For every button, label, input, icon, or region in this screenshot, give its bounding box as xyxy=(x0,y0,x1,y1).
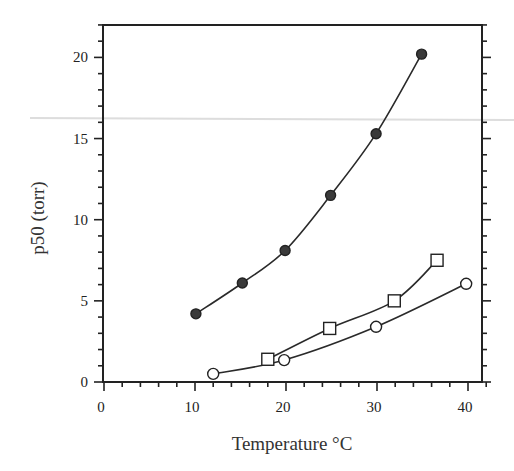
filled-circle-marker xyxy=(280,246,290,256)
data-markers xyxy=(191,49,472,379)
x-tick-label: 10 xyxy=(185,399,200,415)
filled-circle-marker xyxy=(371,129,381,139)
x-tick-label: 20 xyxy=(276,399,291,415)
y-tick-label: 10 xyxy=(73,212,88,228)
y-axis-title: p50 (torr) xyxy=(27,181,49,254)
y-tick-label: 0 xyxy=(81,374,89,390)
open-circle-marker xyxy=(461,278,472,289)
filled-circle-marker xyxy=(326,190,336,200)
open-square-marker xyxy=(262,353,274,365)
p50-temperature-chart: 01020304005101520 Temperature °C p50 (to… xyxy=(0,0,514,471)
open-circle-marker xyxy=(208,368,219,379)
plot-frame xyxy=(103,25,482,382)
minor-ticks xyxy=(98,25,487,387)
fit-curve-open-circle xyxy=(213,284,466,374)
filled-circle-marker xyxy=(237,278,247,288)
open-circle-marker xyxy=(279,355,290,366)
open-square-marker xyxy=(431,254,443,266)
x-tick-label: 40 xyxy=(458,399,473,415)
filled-circle-marker xyxy=(191,309,201,319)
x-tick-label: 0 xyxy=(97,399,105,415)
open-square-marker xyxy=(324,322,336,334)
open-square-marker xyxy=(388,295,400,307)
y-tick-label: 20 xyxy=(73,49,88,65)
y-tick-label: 5 xyxy=(81,293,89,309)
x-axis-title: Temperature °C xyxy=(232,433,353,454)
filled-circle-marker xyxy=(417,49,427,59)
fit-curve-filled-circle xyxy=(196,54,422,314)
major-ticks xyxy=(94,57,491,391)
x-tick-label: 30 xyxy=(367,399,382,415)
y-tick-label: 15 xyxy=(73,131,88,147)
open-circle-marker xyxy=(371,321,382,332)
